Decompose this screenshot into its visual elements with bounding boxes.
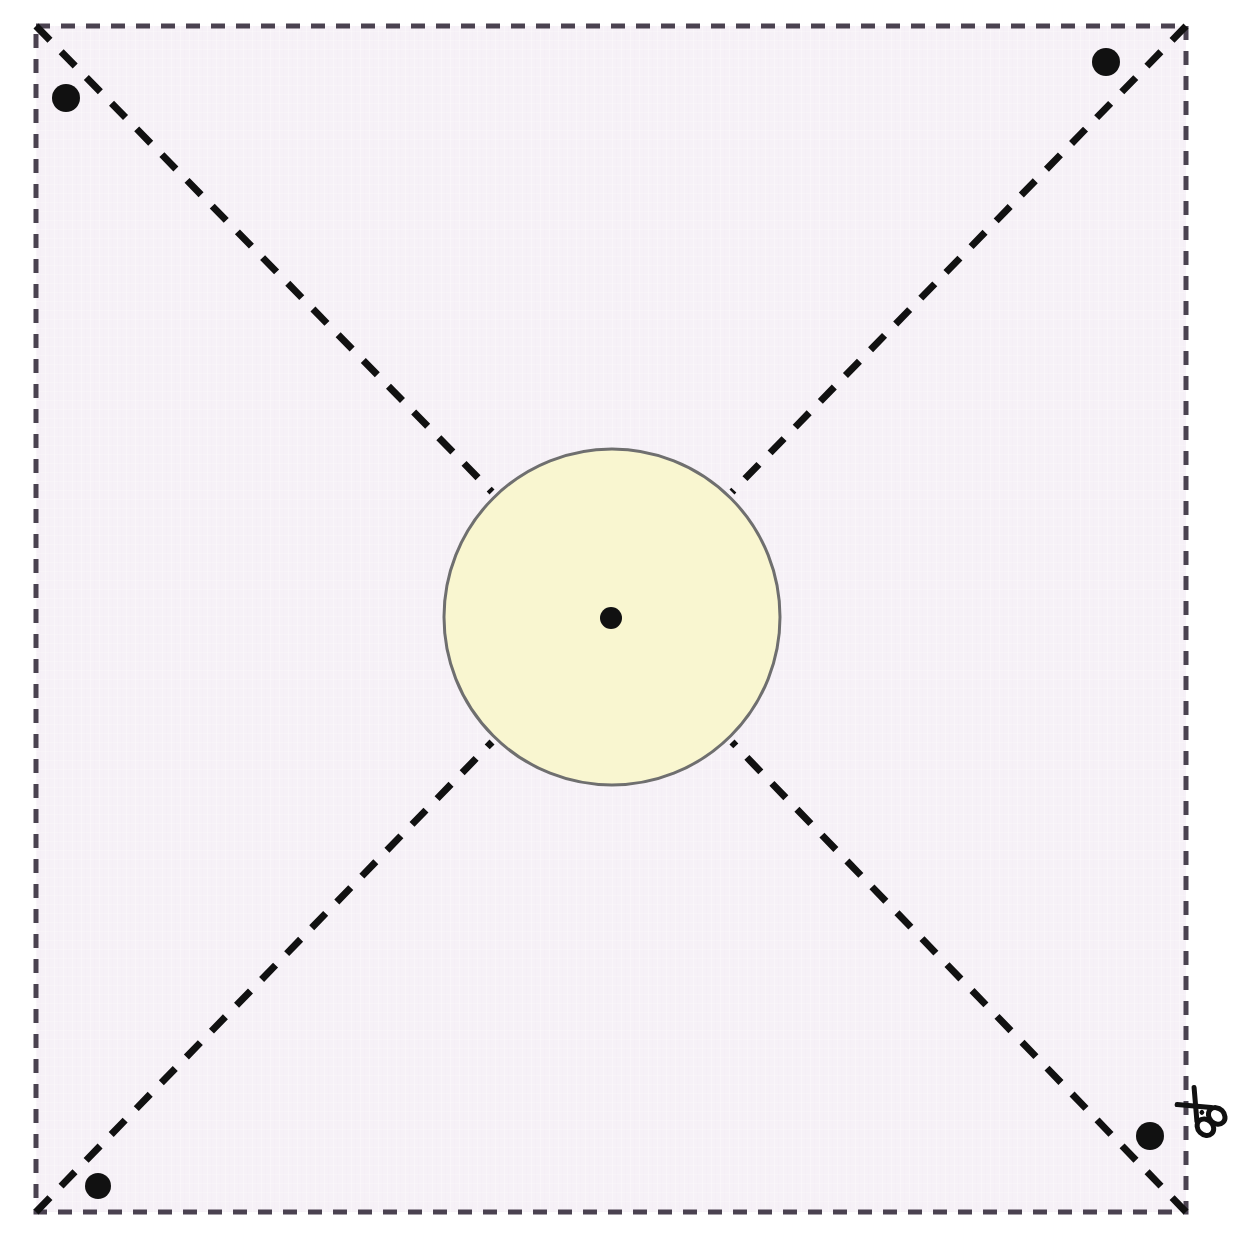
top-left-marker [52,84,80,112]
top-right-marker [1092,48,1120,76]
bottom-left-marker [85,1173,111,1199]
template-drawing [0,0,1233,1248]
center-point-marker [600,607,622,629]
cut-template-canvas [0,0,1233,1248]
bottom-right-marker [1136,1122,1164,1150]
